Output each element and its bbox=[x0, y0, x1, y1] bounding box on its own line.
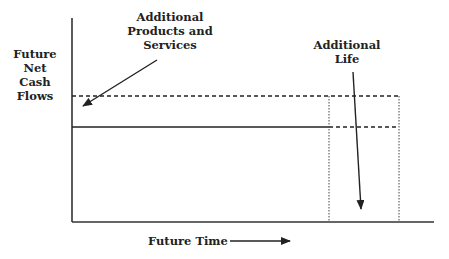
y-label-line-3: Cash bbox=[6, 75, 64, 89]
products-line-1: Additional bbox=[120, 10, 220, 24]
products-arrow-icon bbox=[83, 60, 157, 106]
products-annotation: Additional Products and Services bbox=[120, 10, 220, 52]
life-arrow-icon bbox=[353, 72, 361, 209]
life-line-1: Additional bbox=[312, 38, 382, 52]
y-label-line-2: Net bbox=[6, 61, 64, 75]
life-line-2: Life bbox=[312, 52, 382, 66]
x-axis-label: Future Time bbox=[148, 234, 226, 248]
y-axis-label: Future Net Cash Flows bbox=[6, 47, 64, 103]
life-annotation: Additional Life bbox=[312, 38, 382, 66]
products-line-3: Services bbox=[120, 38, 220, 52]
products-line-2: Products and bbox=[120, 24, 220, 38]
y-label-line-1: Future bbox=[6, 47, 64, 61]
y-label-line-4: Flows bbox=[6, 89, 64, 103]
